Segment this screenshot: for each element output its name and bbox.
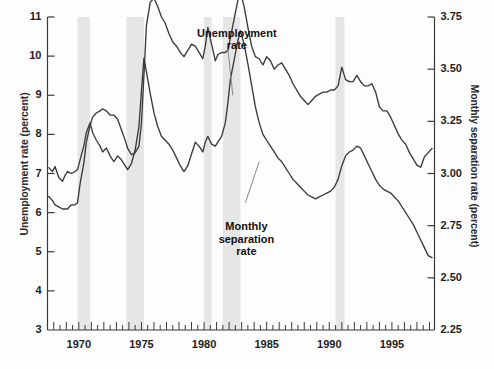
- x-tick-label: 1990: [306, 338, 352, 350]
- annotation-leader-line: [245, 162, 259, 203]
- monthly-separation-rate-label: Monthlyseparationrate: [219, 220, 275, 258]
- recession-bands-layer: [78, 17, 345, 330]
- annotation-line: Unemployment: [197, 27, 276, 40]
- y-tick-label-right: 2.75: [441, 219, 475, 231]
- y-tick-label-left: 11: [16, 10, 42, 22]
- x-tick-label: 1995: [369, 338, 415, 350]
- y-tick-label-left: 6: [16, 206, 42, 218]
- plot-area: [0, 0, 494, 369]
- annotation-line: Monthly: [219, 220, 275, 233]
- y-tick-label-right: 2.50: [441, 271, 475, 283]
- x-tick-label: 1970: [56, 338, 102, 350]
- recession-band: [204, 17, 212, 330]
- x-tick-label: 1985: [244, 338, 290, 350]
- y-tick-label-left: 9: [16, 88, 42, 100]
- recession-band: [78, 17, 91, 330]
- x-tick-label: 1980: [181, 338, 227, 350]
- annotation-line: rate: [219, 245, 275, 258]
- y-tick-label-right: 3.75: [441, 10, 475, 22]
- y-tick-label-right: 3.25: [441, 114, 475, 126]
- y-tick-label-left: 3: [16, 323, 42, 335]
- annotation-line: separation: [219, 233, 275, 246]
- recession-band: [223, 17, 241, 330]
- y-tick-label-left: 10: [16, 49, 42, 61]
- annotation-line: rate: [197, 39, 276, 52]
- y-tick-label-right: 3.50: [441, 62, 475, 74]
- x-tick-label: 1975: [118, 338, 164, 350]
- y-tick-label-left: 8: [16, 127, 42, 139]
- y-tick-label-left: 4: [16, 284, 42, 296]
- axes-layer: [48, 17, 435, 330]
- unemployment-rate-label: Unemploymentrate: [197, 27, 276, 52]
- recession-band: [126, 17, 144, 330]
- y-tick-label-left: 5: [16, 245, 42, 257]
- y-tick-label-right: 2.25: [441, 323, 475, 335]
- y-tick-label-right: 3.00: [441, 167, 475, 179]
- y-tick-label-left: 7: [16, 167, 42, 179]
- chart-figure: Unemployment rate (percent) Monthly sepa…: [0, 0, 494, 369]
